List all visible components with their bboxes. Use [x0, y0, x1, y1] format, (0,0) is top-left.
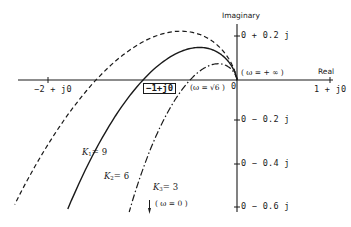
tick-label-1: 1 + j0	[314, 85, 347, 94]
nyquist-plot	[0, 0, 351, 227]
gain-label-k2: K2= 6	[104, 172, 129, 182]
omega-infinity-label: ( ω = + ∞ )	[241, 69, 284, 77]
gain-value: = 6	[114, 171, 129, 181]
tick-label-imag-minus02: 0 − 0.2 j	[241, 115, 290, 124]
real-axis-label: Real	[318, 68, 334, 76]
gain-value: = 3	[163, 182, 178, 192]
gain-label-k1: K1= 9	[82, 148, 107, 158]
imaginary-axis-label: Imaginary	[222, 12, 260, 20]
omega-sqrt6-label: (ω = √6 )	[190, 84, 225, 92]
gain-value: = 9	[92, 147, 107, 157]
tick-label-imag-minus04: 0 − 0.4 j	[241, 159, 290, 168]
gain-label-k3: K3= 3	[153, 183, 178, 193]
origin-label: 0	[231, 82, 236, 91]
tick-label-imag-minus06: 0 − 0.6 j	[241, 202, 290, 211]
tick-label-imag-plus02: 0 + 0.2 j	[241, 31, 290, 40]
critical-point-label: −1+j0	[143, 83, 176, 94]
omega-zero-label: ( ω = 0 )	[155, 200, 188, 208]
tick-label-minus2: −2 + j0	[34, 85, 72, 94]
